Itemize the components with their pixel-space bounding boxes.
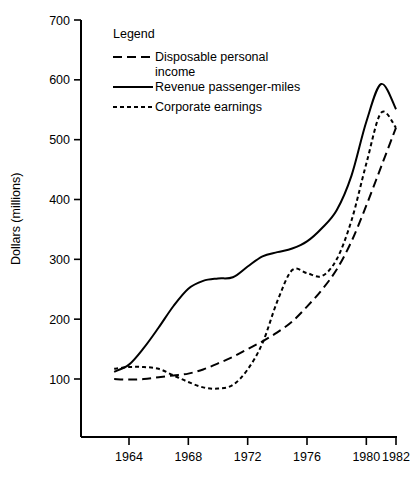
x-axis-ticks: 196419681972197619801982	[115, 437, 410, 464]
x-tick-label-1980: 1980	[352, 450, 380, 464]
x-tick-label-1972: 1972	[234, 450, 262, 464]
x-tick-label-1982: 1982	[382, 450, 410, 464]
legend-label-disposable-personal-income-line1: Disposable personal	[155, 50, 268, 64]
legend-title: Legend	[113, 27, 155, 41]
y-axis-ticks: 100200300400500600700	[49, 14, 81, 387]
series-line-corporate-earnings	[114, 112, 396, 389]
y-tick-label-100: 100	[49, 373, 70, 387]
y-tick-label-600: 600	[49, 73, 70, 87]
y-tick-label-200: 200	[49, 313, 70, 327]
x-tick-label-1968: 1968	[174, 450, 202, 464]
legend-label-disposable-personal-income-line2: income	[155, 65, 195, 79]
series-group	[114, 84, 396, 389]
y-tick-label-700: 700	[49, 14, 70, 28]
legend-label-corporate-earnings: Corporate earnings	[155, 100, 262, 114]
series-line-revenue-passenger-miles	[114, 84, 396, 372]
y-axis-title: Dollars (millions)	[9, 173, 23, 265]
chart-canvas: Dollars (millions) 100200300400500600700…	[0, 0, 418, 478]
y-tick-label-500: 500	[49, 133, 70, 147]
y-tick-label-400: 400	[49, 193, 70, 207]
chart-legend: Legend Disposable personal income Revenu…	[113, 27, 300, 114]
x-tick-label-1964: 1964	[115, 450, 143, 464]
legend-label-revenue-passenger-miles: Revenue passenger-miles	[155, 80, 300, 94]
y-tick-label-300: 300	[49, 253, 70, 267]
x-tick-label-1976: 1976	[293, 450, 321, 464]
line-chart: Dollars (millions) 100200300400500600700…	[0, 0, 418, 478]
